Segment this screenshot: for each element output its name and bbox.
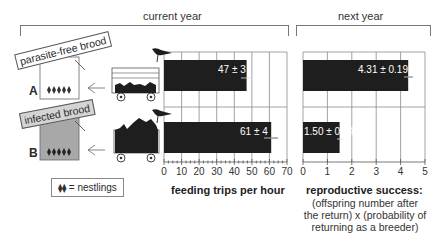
tick: 4 bbox=[391, 166, 411, 177]
subtitle-line: returning as a breeder) bbox=[290, 221, 440, 233]
subtitle-line: the return) x (probability of bbox=[290, 209, 440, 221]
tick: 0 bbox=[293, 166, 313, 177]
left-axis-title: feeding trips per hour bbox=[171, 184, 285, 196]
nestling-icon: ⧫⧫ bbox=[58, 183, 66, 193]
right-chart-axis bbox=[303, 159, 425, 165]
arrow-B bbox=[88, 145, 105, 155]
left-chart-axis bbox=[164, 159, 287, 165]
bird-A bbox=[152, 48, 172, 62]
legend-text: = nestlings bbox=[69, 182, 117, 193]
tick: 1 bbox=[317, 166, 337, 177]
tick: 2 bbox=[342, 166, 362, 177]
value-label-feeding-A: 47 ± 3 bbox=[218, 64, 246, 75]
brood-letter-B: B bbox=[29, 146, 38, 160]
brood-letter-A: A bbox=[29, 84, 38, 98]
tick: 3 bbox=[366, 166, 386, 177]
right-axis-title: reproductive success: bbox=[306, 184, 423, 196]
right-axis-subtitle: (offspring number after the return) x (p… bbox=[290, 197, 440, 233]
legend: ⧫⧫ = nestlings bbox=[51, 178, 124, 197]
arrow-A bbox=[88, 83, 105, 93]
tick: 5 bbox=[415, 166, 435, 177]
value-label-success-A: 4.31 ± 0.19 bbox=[358, 64, 408, 75]
cart-B bbox=[114, 118, 159, 162]
cart-A bbox=[112, 68, 159, 101]
value-label-feeding-B: 61 ± 4 bbox=[240, 126, 268, 137]
subtitle-line: (offspring number after bbox=[290, 197, 440, 209]
value-label-success-B: 1.50 ± 0.14 bbox=[304, 126, 354, 137]
bird-B bbox=[152, 109, 172, 123]
